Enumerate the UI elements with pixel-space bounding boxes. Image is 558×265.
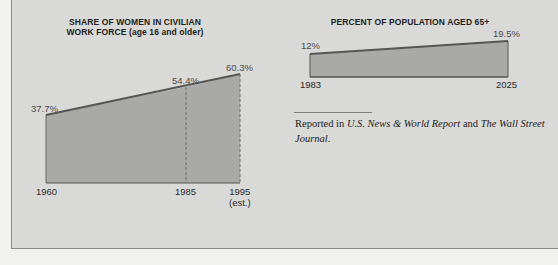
left-title-line1: SHARE OF WOMEN IN CIVILIAN <box>60 17 210 27</box>
note-source-usnews: U.S. News & World Report <box>347 118 460 129</box>
left-title-line2: WORK FORCE (age 16 and older) <box>60 27 210 37</box>
tick-1960: 1960 <box>36 186 57 197</box>
tick-1983: 1983 <box>300 79 321 90</box>
left-chart-title: SHARE OF WOMEN IN CIVILIAN WORK FORCE (a… <box>60 17 210 37</box>
value-label-1983: 12% <box>301 40 320 51</box>
tick-1995-est: (est.) <box>229 197 251 208</box>
tick-1995: 1995 (est.) <box>229 186 251 208</box>
tick-2025: 2025 <box>496 79 517 90</box>
value-label-1985: 54.4% <box>172 75 199 86</box>
source-note: Reported in U.S. News & World Report and… <box>295 116 557 146</box>
tick-1985: 1985 <box>175 186 196 197</box>
note-suffix: . <box>328 133 331 144</box>
value-label-1960: 37.7% <box>31 103 58 114</box>
note-divider <box>294 112 372 113</box>
right-chart-title: PERCENT OF POPULATION AGED 65+ <box>325 17 495 27</box>
note-prefix: Reported in <box>295 118 347 129</box>
tick-1995-year: 1995 <box>229 186 251 197</box>
note-middle: and <box>460 118 480 129</box>
population-65-area <box>310 41 508 77</box>
value-label-1995: 60.3% <box>226 62 253 73</box>
women-workforce-area <box>46 74 240 183</box>
value-label-2025: 19.5% <box>493 28 520 39</box>
